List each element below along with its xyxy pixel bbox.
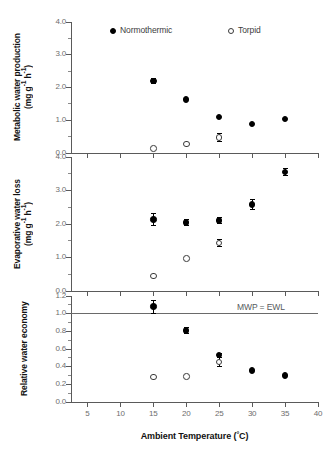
x-axis-line-panel-0 — [70, 153, 319, 154]
x-tick-0-6 — [285, 154, 286, 158]
x-tick-1-7 — [318, 292, 319, 296]
y-tick-2-2 — [66, 366, 71, 367]
x-tick-label-3: 20 — [172, 409, 200, 418]
legend-marker-normothermic — [110, 28, 116, 34]
x-tick-label-2: 15 — [139, 409, 167, 418]
y-axis-title-panel-bottom: Relative water economy — [19, 296, 30, 402]
figure-container: 0.01.02.03.04.00.01.02.03.04.00.00.20.40… — [0, 0, 330, 459]
error-bar-cap — [217, 246, 222, 247]
legend-marker-torpid — [228, 28, 234, 34]
y-tick-label-2-1: 0.2 — [38, 379, 66, 388]
y-tick-2-6 — [66, 296, 71, 297]
x-tick-1-6 — [285, 292, 286, 296]
y-tick-minor-2-1 — [68, 375, 71, 376]
x-tick-2-3 — [186, 403, 187, 407]
x-tick-2-2 — [153, 403, 154, 407]
error-bar-cap — [250, 209, 255, 210]
x-tick-0-2 — [153, 154, 154, 158]
data-point-torpid — [150, 273, 157, 280]
y-tick-minor-0-1 — [68, 103, 71, 104]
y-tick-1-2 — [66, 224, 71, 225]
data-point-normothermic — [183, 327, 189, 333]
y-tick-minor-0-3 — [68, 38, 71, 39]
data-point-torpid — [150, 145, 157, 152]
y-tick-label-0-4: 4.0 — [38, 17, 66, 26]
x-tick-2-4 — [219, 403, 220, 407]
y-tick-2-0 — [66, 402, 71, 403]
data-point-normothermic — [216, 114, 222, 120]
y-tick-minor-0-0 — [68, 136, 71, 137]
x-axis-title: Ambient Temperature (°C) — [71, 431, 318, 441]
x-tick-label-5: 30 — [238, 409, 266, 418]
y-tick-2-4 — [66, 331, 71, 332]
y-tick-0-1 — [66, 120, 71, 121]
y-tick-2-3 — [66, 349, 71, 350]
x-axis-line-panel-2 — [70, 402, 319, 403]
x-tick-0-4 — [219, 154, 220, 158]
y-tick-minor-2-5 — [68, 304, 71, 305]
x-tick-2-1 — [120, 403, 121, 407]
y-tick-0-3 — [66, 54, 71, 55]
data-point-normothermic — [150, 78, 156, 84]
y-tick-label-2-2: 0.4 — [38, 361, 66, 370]
y-tick-label-0-1: 1.0 — [38, 115, 66, 124]
x-tick-label-4: 25 — [205, 409, 233, 418]
x-tick-label-0: 5 — [73, 409, 101, 418]
y-tick-1-1 — [66, 257, 71, 258]
error-bar-cap — [217, 357, 222, 358]
y-tick-0-4 — [66, 22, 71, 23]
y-tick-label-1-3: 3.0 — [38, 185, 66, 194]
data-point-torpid — [216, 359, 223, 366]
x-tick-label-6: 35 — [271, 409, 299, 418]
error-bar-cap — [151, 213, 156, 214]
data-point-normothermic — [183, 96, 189, 102]
y-tick-minor-2-3 — [68, 340, 71, 341]
y-tick-0-0 — [66, 153, 71, 154]
x-tick-2-6 — [285, 403, 286, 407]
data-point-normothermic — [249, 121, 255, 127]
x-tick-1-2 — [153, 292, 154, 296]
error-bar-cap — [217, 366, 222, 367]
data-point-normothermic — [282, 372, 288, 378]
x-tick-0-1 — [120, 154, 121, 158]
y-axis-title-panel-top: Metabolic water production(mg g-1 h-1) — [12, 22, 33, 153]
x-tick-0-7 — [318, 154, 319, 158]
y-tick-label-2-4: 0.8 — [38, 326, 66, 335]
y-tick-minor-2-0 — [68, 393, 71, 394]
x-tick-2-5 — [252, 403, 253, 407]
x-tick-2-0 — [87, 403, 88, 407]
data-point-normothermic — [150, 216, 156, 222]
legend-label-normothermic: Normothermic — [120, 25, 172, 35]
error-bar-cap — [250, 199, 255, 200]
x-tick-1-4 — [219, 292, 220, 296]
legend-label-torpid: Torpid — [238, 25, 261, 35]
y-tick-minor-2-4 — [68, 322, 71, 323]
data-point-normothermic — [249, 367, 255, 373]
data-point-torpid — [150, 374, 157, 381]
data-point-normothermic — [150, 303, 156, 309]
error-bar-cap — [151, 313, 156, 314]
y-tick-1-0 — [66, 291, 71, 292]
y-tick-0-2 — [66, 87, 71, 88]
y-tick-minor-1-2 — [68, 207, 71, 208]
y-tick-label-2-5: 1.0 — [38, 308, 66, 317]
y-tick-1-3 — [66, 190, 71, 191]
y-tick-minor-1-0 — [68, 274, 71, 275]
reference-line-mwp-ewl — [71, 313, 318, 314]
y-tick-label-2-6: 1.2 — [38, 291, 66, 300]
data-point-torpid — [183, 255, 190, 262]
error-bar-cap — [217, 141, 222, 142]
y-axis-title-panel-middle: Evaporative water loss(mg g-1 h-1) — [12, 157, 33, 291]
data-point-torpid — [216, 134, 223, 141]
x-tick-1-3 — [186, 292, 187, 296]
x-tick-1-5 — [252, 292, 253, 296]
y-tick-minor-0-2 — [68, 71, 71, 72]
data-point-normothermic — [183, 219, 189, 225]
x-tick-0-5 — [252, 154, 253, 158]
data-point-torpid — [183, 373, 190, 380]
x-tick-0-3 — [186, 154, 187, 158]
x-tick-label-1: 10 — [106, 409, 134, 418]
y-tick-1-4 — [66, 157, 71, 158]
y-tick-label-0-2: 2.0 — [38, 82, 66, 91]
y-tick-minor-2-2 — [68, 357, 71, 358]
